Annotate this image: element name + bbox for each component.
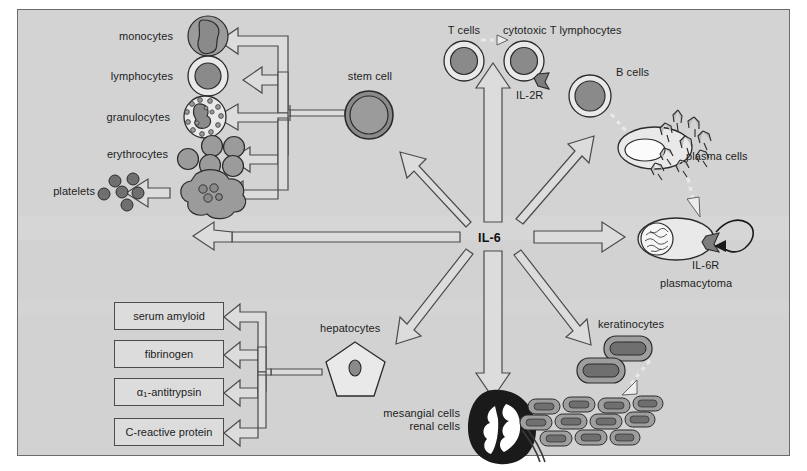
label-erythrocytes: erythrocytes	[40, 148, 168, 161]
arrow-to-lymphocytes	[243, 67, 288, 113]
label-monocytes: monocytes	[58, 30, 173, 43]
box-c-reactive-protein-label: C-reactive protein	[126, 426, 213, 438]
arrow-il6-to-renalcells	[476, 251, 510, 398]
cell-keratinocytes	[520, 336, 663, 446]
label-lymphocytes: lymphocytes	[48, 70, 173, 83]
arrow-stemcell-trunk	[290, 105, 345, 121]
cell-monocyte	[188, 16, 228, 56]
label-b-cells: B cells	[616, 66, 649, 79]
box-fibrinogen: fibrinogen	[114, 340, 224, 368]
box-fibrinogen-label: fibrinogen	[145, 348, 193, 360]
cell-lymphocyte	[188, 56, 228, 96]
label-renal-cells: renal cells	[350, 420, 460, 433]
arrow-il6-to-tcells	[476, 63, 510, 222]
cell-granulocyte	[184, 96, 226, 138]
label-il6r: IL-6R	[692, 259, 719, 272]
arrow-hepatocyte-trunk	[271, 369, 322, 375]
label-cytotoxic-t-lymphocytes: cytotoxic T lymphocytes	[503, 24, 622, 37]
arrow-il6-to-hepatocytes	[396, 249, 473, 344]
box-serum-amyloid: serum amyloid	[114, 302, 224, 330]
cell-stem-cell	[345, 91, 393, 139]
cell-megakaryocyte	[181, 170, 246, 219]
figure-canvas: .aw{fill:#dcdcdc;stroke:#4a4a4a;stroke-w…	[0, 0, 807, 471]
arrow-il6-to-megakaryocyte	[193, 222, 460, 250]
label-granulocytes: granulocytes	[48, 111, 170, 124]
dashed-arrow-tcell-to-ctl	[481, 35, 508, 45]
label-keratinocytes: keratinocytes	[598, 318, 664, 331]
keratinocyte-sheet	[520, 396, 663, 446]
cell-b-cells	[569, 75, 611, 117]
box-c-reactive-protein: C-reactive protein	[114, 418, 224, 446]
box-serum-amyloid-label: serum amyloid	[133, 310, 205, 322]
label-platelets: platelets	[5, 185, 95, 198]
cell-t-cells	[444, 41, 484, 81]
arrow-il6-to-plasmacytoma	[534, 222, 625, 252]
cell-cytotoxic-t-lymphocyte	[504, 41, 549, 89]
dashed-arrow-plasmacell-to-plasmacytoma	[687, 178, 700, 217]
cell-hepatocyte	[326, 342, 385, 396]
label-plasmacytoma: plasmacytoma	[660, 277, 732, 290]
arrow-il6-to-stemcell	[400, 152, 471, 227]
arrow-il6-to-keratinocytes	[514, 250, 591, 345]
label-hepatocytes: hepatocytes	[320, 322, 380, 335]
box-a1-antitrypsin-tail: -antitrypsin	[148, 386, 202, 398]
label-il6-hub: IL-6	[478, 231, 501, 245]
arrow-to-fibrinogen	[224, 342, 266, 372]
box-a1-antitrypsin-subscript: 1	[143, 390, 147, 399]
cell-plasma-cells	[618, 110, 711, 180]
cell-platelets	[98, 173, 144, 211]
label-il2r: IL-2R	[516, 89, 543, 102]
cell-plasmacytoma	[638, 218, 753, 260]
label-t-cells: T cells	[434, 24, 494, 37]
arrow-to-c-reactive-protein	[224, 375, 266, 446]
label-stem-cell: stem cell	[330, 70, 410, 83]
dashed-arrow-keratinocyte-proliferation	[622, 360, 650, 395]
box-a1-antitrypsin: α1-antitrypsin	[114, 378, 224, 406]
label-mesangial-cells: mesangial cells	[350, 407, 460, 420]
arrow-to-granulocytes	[216, 104, 288, 130]
label-plasma-cells: plasma cells	[686, 150, 748, 163]
arrow-il6-to-plasmacells	[516, 136, 594, 224]
